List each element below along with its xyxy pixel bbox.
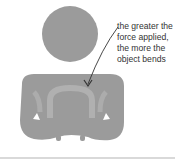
bottom-divider [0,157,175,159]
foot-right [80,135,85,141]
annotation-line: force applied, [117,32,175,43]
annotation-line: object bends [117,54,175,65]
ball-shape [42,6,98,62]
annotation-line: the greater the [117,21,175,32]
annotation-line: the more the [117,43,175,54]
bent-object-shape [20,74,124,140]
foot-left [56,135,61,141]
bending-diagram: the greater the force applied, the more … [0,0,175,166]
annotation-text: the greater the force applied, the more … [117,21,175,65]
